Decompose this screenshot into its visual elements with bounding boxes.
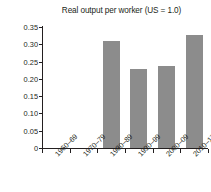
- y-tick-mark: [39, 79, 42, 80]
- y-tick-label: 0.05: [12, 126, 38, 135]
- y-tick-label: 0.20: [12, 74, 38, 83]
- bar: [103, 41, 120, 148]
- bar: [158, 66, 175, 148]
- plot-area: 00.050.100.150.200.250.300.35: [42, 26, 208, 149]
- y-tick-mark: [39, 44, 42, 45]
- y-tick-mark: [39, 62, 42, 63]
- y-tick-mark: [39, 131, 42, 132]
- chart-figure: Real output per worker (US = 1.0) Ratio …: [0, 0, 211, 192]
- y-tick-mark: [39, 96, 42, 97]
- y-tick-mark: [39, 113, 42, 114]
- chart-title: Real output per worker (US = 1.0): [34, 6, 209, 15]
- y-tick-mark: [39, 27, 42, 28]
- y-tick-label: 0.35: [12, 23, 38, 32]
- y-tick-label: 0.10: [12, 109, 38, 118]
- x-tick-mark: [208, 149, 209, 153]
- y-tick-label: 0: [12, 144, 38, 153]
- x-axis-labels: 1960–691970–791980–891990–992000–092010–…: [42, 152, 208, 192]
- bar: [186, 35, 203, 148]
- y-tick-label: 0.25: [12, 57, 38, 66]
- y-axis-line: [42, 26, 43, 149]
- y-tick-label: 0.15: [12, 92, 38, 101]
- y-tick-label: 0.30: [12, 40, 38, 49]
